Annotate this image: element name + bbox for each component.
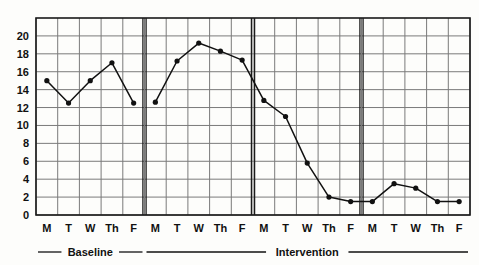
x-tick-label: T bbox=[282, 222, 289, 234]
x-tick-label: T bbox=[65, 222, 72, 234]
data-point bbox=[66, 100, 71, 105]
data-point bbox=[218, 49, 223, 54]
data-point bbox=[305, 160, 310, 165]
x-tick-label: W bbox=[411, 222, 422, 234]
data-point bbox=[88, 78, 93, 83]
phase-label-intervention: Intervention bbox=[276, 246, 339, 258]
y-tick-label: 14 bbox=[17, 84, 30, 96]
x-tick-label: F bbox=[239, 222, 246, 234]
y-tick-label: 8 bbox=[23, 137, 29, 149]
x-tick-label: F bbox=[130, 222, 137, 234]
y-tick-label: 2 bbox=[23, 191, 29, 203]
data-point bbox=[370, 199, 375, 204]
data-point bbox=[326, 194, 331, 199]
x-tick-label: W bbox=[302, 222, 313, 234]
x-tick-label: T bbox=[391, 222, 398, 234]
x-tick-label: M bbox=[42, 222, 51, 234]
x-tick-label: F bbox=[456, 222, 463, 234]
y-tick-label: 20 bbox=[17, 30, 29, 42]
x-tick-label: M bbox=[259, 222, 268, 234]
data-point bbox=[109, 60, 114, 65]
data-point bbox=[196, 40, 201, 45]
x-tick-label: M bbox=[151, 222, 160, 234]
y-tick-label: 12 bbox=[17, 102, 29, 114]
x-tick-label: Th bbox=[322, 222, 336, 234]
x-tick-label: M bbox=[368, 222, 377, 234]
y-tick-label: 6 bbox=[23, 155, 29, 167]
chart-figure: 02468101214161820 MTWThFMTWThFMTWThFMTWT… bbox=[0, 0, 479, 265]
line-chart-canvas: 02468101214161820 MTWThFMTWThFMTWThFMTWT… bbox=[0, 0, 479, 265]
x-tick-label: F bbox=[347, 222, 354, 234]
x-tick-label: W bbox=[194, 222, 205, 234]
data-point bbox=[283, 114, 288, 119]
x-tick-label: Th bbox=[214, 222, 228, 234]
x-tick-label: T bbox=[174, 222, 181, 234]
data-point bbox=[391, 181, 396, 186]
data-point bbox=[435, 199, 440, 204]
y-tick-label: 10 bbox=[17, 119, 29, 131]
phase-label-baseline: Baseline bbox=[68, 246, 113, 258]
data-point bbox=[240, 57, 245, 62]
data-point bbox=[261, 98, 266, 103]
y-tick-label: 18 bbox=[17, 48, 29, 60]
x-tick-label: W bbox=[85, 222, 96, 234]
data-point bbox=[44, 78, 49, 83]
y-tick-label: 0 bbox=[23, 209, 29, 221]
data-point bbox=[131, 100, 136, 105]
data-point bbox=[174, 58, 179, 63]
y-tick-label: 16 bbox=[17, 66, 29, 78]
data-point bbox=[457, 199, 462, 204]
x-tick-label: Th bbox=[431, 222, 445, 234]
data-point bbox=[348, 199, 353, 204]
data-point bbox=[153, 100, 158, 105]
x-tick-label: Th bbox=[105, 222, 119, 234]
data-point bbox=[413, 186, 418, 191]
y-tick-label: 4 bbox=[23, 173, 30, 185]
